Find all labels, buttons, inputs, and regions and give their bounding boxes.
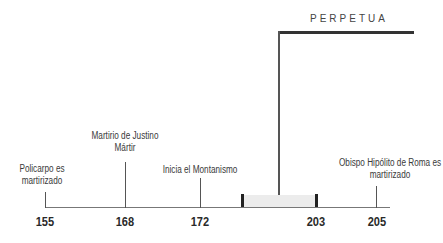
- timeline-axis: [45, 207, 390, 208]
- year-205: 205: [368, 214, 386, 229]
- year-168: 168: [116, 214, 134, 229]
- event-tick-172: [200, 178, 201, 208]
- event-label-205: Obispo Hipólito de Roma es martirizado: [337, 157, 443, 181]
- event-label-line2: martirizado: [9, 175, 75, 187]
- perpetua-title: PERPETUA: [310, 13, 388, 24]
- event-tick-155: [45, 192, 46, 208]
- event-label-155: Policarpo es martirizado: [9, 163, 75, 187]
- event-tick-205: [376, 186, 377, 208]
- event-tick-168: [125, 162, 126, 208]
- year-203: 203: [307, 214, 325, 229]
- event-label-line1: Martirio de Justino: [80, 130, 170, 142]
- event-label-line2: martirizado: [337, 169, 443, 181]
- year-172: 172: [191, 214, 209, 229]
- event-label-168: Martirio de Justino Mártir: [80, 130, 170, 154]
- event-label-line2: Mártir: [80, 142, 170, 154]
- event-label-line1: Policarpo es: [9, 163, 75, 175]
- year-155: 155: [36, 214, 54, 229]
- span-end-tick: [315, 194, 318, 208]
- event-label-line1: Inicia el Montanismo: [159, 164, 241, 176]
- event-label-line1: Obispo Hipólito de Roma es: [337, 157, 443, 169]
- perpetua-vertical-line: [278, 31, 280, 201]
- perpetua-top-bar: [278, 31, 414, 34]
- event-label-172: Inicia el Montanismo: [159, 164, 241, 176]
- span-start-tick: [241, 194, 244, 208]
